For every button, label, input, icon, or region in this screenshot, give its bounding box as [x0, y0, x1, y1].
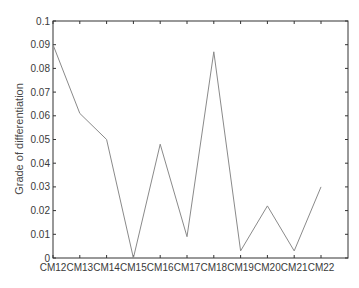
x-tick-label: CM14 [93, 262, 120, 273]
plot-frame [53, 21, 348, 258]
x-tick-label: CM18 [200, 262, 227, 273]
y-tick-label: 0.08 [31, 63, 51, 74]
y-tick-label: 0.07 [31, 87, 51, 98]
data-series-line [53, 45, 321, 258]
y-tick-label: 0.03 [31, 181, 51, 192]
x-tick-label: CM15 [120, 262, 147, 273]
x-tick-label: CM22 [308, 262, 335, 273]
y-tick-label: 0.01 [31, 229, 51, 240]
x-tick-label: CM21 [281, 262, 308, 273]
y-axis-label: Grade of differentiation [13, 83, 25, 195]
y-tick-label: 0.1 [36, 16, 50, 27]
y-tick-label: 0.05 [31, 134, 51, 145]
x-tick-label: CM12 [40, 262, 67, 273]
x-tick-label: CM17 [174, 262, 201, 273]
y-tick-label: 0.09 [31, 39, 51, 50]
axes-box [53, 21, 348, 258]
x-tick-label: CM16 [147, 262, 174, 273]
y-axis-ticks: 00.010.020.030.040.050.060.070.080.090.1 [31, 16, 348, 264]
x-tick-label: CM20 [254, 262, 281, 273]
y-tick-label: 0.04 [31, 158, 51, 169]
y-tick-label: 0.06 [31, 110, 51, 121]
y-tick-label: 0.02 [31, 205, 51, 216]
x-tick-label: CM19 [227, 262, 254, 273]
x-tick-label: CM13 [66, 262, 93, 273]
line-chart: 00.010.020.030.040.050.060.070.080.090.1… [0, 0, 359, 288]
